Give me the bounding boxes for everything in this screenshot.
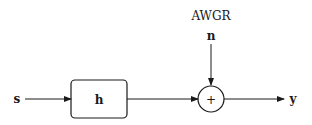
noise-model-title: AWGR: [190, 9, 231, 23]
block-diagram: AWGR n s h + y: [0, 0, 312, 125]
noise-label: n: [207, 29, 216, 43]
input-label: s: [14, 92, 21, 106]
channel-block-label: h: [95, 93, 104, 107]
output-label: y: [289, 92, 298, 106]
adder-plus-icon: +: [206, 93, 216, 107]
